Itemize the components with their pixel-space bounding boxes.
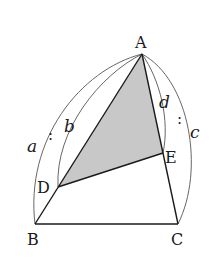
ratio-a: a [27,136,37,156]
label-d: D [37,178,50,197]
ratio-c: c [190,122,200,142]
geometry-diagram: A B C D E a : b d : c [0,0,215,270]
ratio-b: b [64,116,75,136]
label-e: E [165,148,177,167]
ratio-right-colon: : [177,110,182,128]
label-c: C [171,230,183,249]
ratio-left-colon: : [48,126,53,144]
label-a: A [134,33,147,52]
label-b: B [27,230,39,249]
ratio-d: d [159,92,170,112]
